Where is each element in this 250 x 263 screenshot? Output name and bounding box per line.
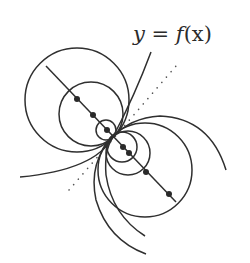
center-point	[143, 169, 149, 175]
label-lhs: y	[133, 22, 145, 46]
label-arg: (x)	[184, 22, 212, 46]
label-func: f	[176, 22, 184, 46]
curve-lower-arc	[94, 137, 146, 254]
center-point	[120, 144, 126, 150]
center-point	[166, 191, 172, 197]
diagram-canvas	[0, 0, 250, 263]
curve-lower-inner-arc	[106, 137, 145, 236]
label-arg-text: (x)	[184, 22, 212, 46]
curve-equation-label: y = f(x)	[133, 22, 212, 46]
center-point	[74, 96, 80, 102]
center-point	[126, 150, 132, 156]
center-point	[104, 127, 110, 133]
label-equals: =	[152, 22, 170, 46]
center-point	[90, 112, 96, 118]
curve-right-arc	[113, 116, 226, 170]
tangent-circles-diagram: y = f(x)	[0, 0, 250, 263]
